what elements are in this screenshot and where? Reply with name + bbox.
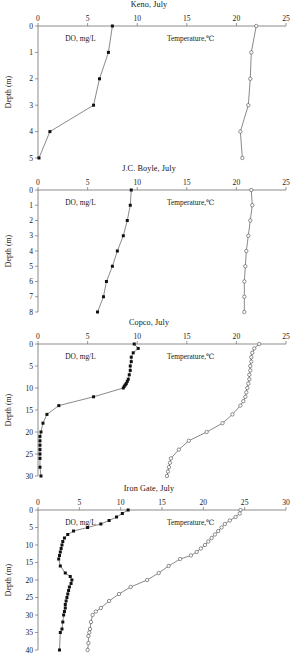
data-point-marker [187, 439, 190, 442]
data-point-marker [59, 631, 62, 634]
data-point-marker [39, 431, 42, 434]
data-point-marker [132, 351, 135, 354]
data-point-marker [126, 219, 129, 222]
data-point-marker [250, 51, 253, 54]
do-series-label: DO, mg/L [65, 518, 96, 527]
data-point-marker [122, 387, 125, 390]
data-point-marker [249, 77, 252, 80]
data-point-marker [70, 582, 73, 585]
series-line [40, 344, 138, 476]
data-point-marker [72, 530, 75, 533]
chart-plot: 0510152025012345678Depth (m)DO, mg/LTemp… [0, 164, 298, 322]
data-point-marker [64, 607, 67, 610]
y-axis-title: Depth (m) [4, 563, 13, 596]
data-point-marker [38, 466, 41, 469]
data-point-marker [37, 157, 40, 160]
y-tick-label: 35 [25, 628, 33, 637]
data-point-marker [129, 204, 132, 207]
y-tick-label: 3 [29, 231, 33, 240]
data-point-marker [111, 25, 114, 28]
data-point-marker [205, 430, 208, 433]
y-tick-label: 25 [25, 450, 33, 459]
data-point-marker [38, 444, 41, 447]
data-point-marker [88, 631, 91, 634]
data-point-marker [59, 551, 62, 554]
data-point-marker [57, 404, 60, 407]
data-point-marker [231, 413, 234, 416]
y-tick-label: 5 [29, 262, 33, 271]
y-tick-label: 5 [29, 154, 33, 163]
data-point-marker [107, 599, 110, 602]
y-tick-label: 0 [29, 506, 33, 515]
data-point-marker [242, 400, 245, 403]
data-point-marker [65, 596, 68, 599]
x-tick-label: 0 [36, 14, 40, 23]
data-point-marker [107, 51, 110, 54]
temperature-series-label: Temperature,℃ [167, 198, 214, 207]
y-tick-label: 6 [29, 277, 33, 286]
data-point-marker [64, 572, 67, 575]
data-point-marker [238, 512, 241, 515]
data-point-marker [251, 204, 254, 207]
data-point-marker [241, 156, 244, 159]
y-tick-label: 8 [29, 308, 33, 317]
x-tick-label: 20 [233, 14, 241, 23]
data-point-marker [157, 571, 160, 574]
data-point-marker [61, 621, 64, 624]
x-tick-label: 5 [86, 332, 90, 341]
data-point-marker [167, 466, 170, 469]
data-point-marker [244, 265, 247, 268]
y-tick-label: 10 [25, 384, 33, 393]
data-point-marker [108, 519, 111, 522]
y-tick-label: 0 [29, 186, 33, 195]
x-tick-label: 0 [36, 498, 40, 507]
data-point-marker [59, 565, 62, 568]
data-point-marker [207, 540, 210, 543]
data-point-marker [87, 641, 90, 644]
data-point-marker [177, 448, 180, 451]
y-tick-label: 2 [29, 216, 33, 225]
y-tick-label: 4 [29, 127, 33, 136]
series-line [167, 344, 259, 476]
x-tick-label: 15 [158, 498, 166, 507]
data-point-marker [251, 351, 254, 354]
x-tick-label: 10 [133, 332, 141, 341]
x-tick-label: 20 [233, 332, 241, 341]
temperature-series-label: Temperature,℃ [167, 352, 214, 361]
data-point-marker [65, 600, 68, 603]
data-point-marker [178, 557, 181, 560]
data-point-marker [189, 554, 192, 557]
data-point-marker [133, 343, 136, 346]
data-point-marker [255, 24, 258, 27]
data-point-marker [167, 564, 170, 567]
y-axis-title: Depth (m) [4, 75, 13, 108]
data-point-marker [213, 533, 216, 536]
y-axis-title: Depth (m) [4, 234, 13, 267]
data-point-marker [245, 391, 248, 394]
data-point-marker [38, 457, 41, 460]
data-point-marker [48, 130, 51, 133]
data-point-marker [60, 628, 63, 631]
data-point-marker [117, 592, 120, 595]
data-point-marker [247, 382, 250, 385]
data-point-marker [62, 614, 65, 617]
x-tick-label: 10 [133, 14, 141, 23]
y-tick-label: 40 [25, 646, 33, 655]
data-point-marker [228, 519, 231, 522]
data-point-marker [69, 575, 72, 578]
series-line [39, 26, 112, 158]
y-tick-label: 20 [25, 576, 33, 585]
do-series-label: DO, mg/L [65, 34, 96, 43]
data-point-marker [105, 280, 108, 283]
data-point-marker [248, 378, 251, 381]
y-tick-label: 15 [25, 558, 33, 567]
x-tick-label: 30 [282, 498, 290, 507]
chart-plot: 0510152025300510152025303540Depth (m)DO,… [0, 484, 298, 660]
data-point-marker [129, 365, 132, 368]
data-point-marker [66, 533, 69, 536]
data-point-marker [57, 558, 60, 561]
data-point-marker [99, 523, 102, 526]
x-tick-label: 5 [77, 498, 81, 507]
data-point-marker [91, 613, 94, 616]
y-tick-label: 0 [29, 340, 33, 349]
